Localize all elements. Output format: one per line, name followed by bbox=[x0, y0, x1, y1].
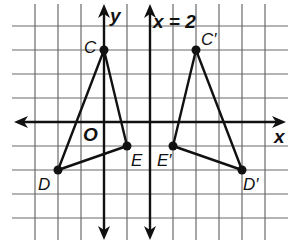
point-c bbox=[100, 46, 109, 55]
coordinate-plane-diagram: y x O x = 2 C D E C′ D′ E′ bbox=[0, 0, 294, 244]
x-axis-label: x bbox=[273, 126, 286, 147]
point-e-prime bbox=[169, 142, 178, 151]
label-c-prime: C′ bbox=[201, 30, 217, 49]
label-d-prime: D′ bbox=[243, 175, 259, 194]
diagram-canvas: y x O x = 2 C D E C′ D′ E′ bbox=[0, 0, 294, 244]
triangle-cde bbox=[54, 46, 132, 175]
label-e: E bbox=[131, 151, 143, 170]
point-e bbox=[123, 142, 132, 151]
point-c-prime bbox=[192, 46, 201, 55]
y-axis-label: y bbox=[109, 5, 122, 26]
triangle-c-prime-d-prime-e-prime bbox=[169, 46, 247, 175]
point-d bbox=[54, 166, 63, 175]
label-c: C bbox=[84, 38, 97, 57]
label-d: D bbox=[38, 175, 50, 194]
point-d-prime bbox=[238, 166, 247, 175]
origin-label: O bbox=[83, 124, 98, 145]
label-e-prime: E′ bbox=[157, 151, 172, 170]
reflection-line-label: x = 2 bbox=[152, 11, 196, 32]
